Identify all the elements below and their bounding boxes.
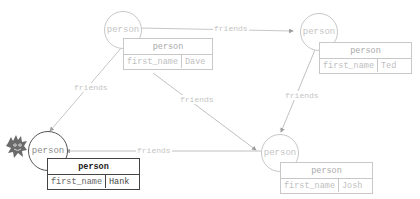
edge-label-dave-josh: friends <box>179 95 215 104</box>
card-josh-title: person <box>281 163 372 179</box>
card-josh-key: first_name <box>281 179 339 192</box>
edge-label-josh-hank: friends <box>136 146 172 155</box>
node-josh-label: person <box>264 148 296 158</box>
card-dave-title: person <box>124 39 212 55</box>
edge-label-dave-hank: friends <box>73 83 109 92</box>
card-dave-key: first_name <box>124 55 182 68</box>
card-dave[interactable]: person first_name Dave <box>123 38 213 70</box>
card-josh[interactable]: person first_name Josh <box>280 162 373 194</box>
card-ted[interactable]: person first_name Ted <box>319 42 412 74</box>
card-josh-value: Josh <box>339 179 365 192</box>
node-dave-label: person <box>107 25 139 35</box>
card-hank-value: Hank <box>106 175 132 188</box>
card-hank-key: first_name <box>48 175 106 188</box>
card-ted-value: Ted <box>378 59 399 72</box>
card-hank-title: person <box>48 159 139 175</box>
node-ted-label: person <box>303 27 335 37</box>
edge-label-ted-josh: friends <box>284 91 320 100</box>
card-ted-title: person <box>320 43 411 59</box>
node-hank-label: person <box>32 146 64 156</box>
edge-ted-josh <box>281 45 317 132</box>
gremlin-mascot-icon <box>5 134 31 160</box>
card-dave-value: Dave <box>182 55 208 68</box>
card-hank[interactable]: person first_name Hank <box>47 158 140 190</box>
edge-dave-josh <box>153 73 256 150</box>
card-ted-key: first_name <box>320 59 378 72</box>
edge-label-dave-ted: friends <box>213 24 249 33</box>
